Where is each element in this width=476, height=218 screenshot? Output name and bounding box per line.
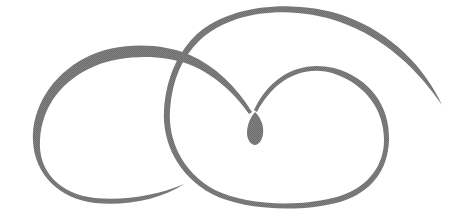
center-teardrop: [247, 112, 263, 145]
swirl-ornament-graphic: [0, 0, 476, 218]
left-loop-swirl: [33, 46, 252, 204]
big-arc-swirl: [164, 6, 442, 208]
ornament-canvas: Decorative calligraphic ornament made of…: [0, 0, 476, 218]
